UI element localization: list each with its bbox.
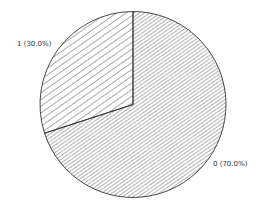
- pie-chart: 1 (30.0%) 0 (70.0%): [0, 0, 261, 207]
- slice-label-0: 0 (70.0%): [213, 160, 248, 168]
- slice-label-1: 1 (30.0%): [17, 40, 52, 48]
